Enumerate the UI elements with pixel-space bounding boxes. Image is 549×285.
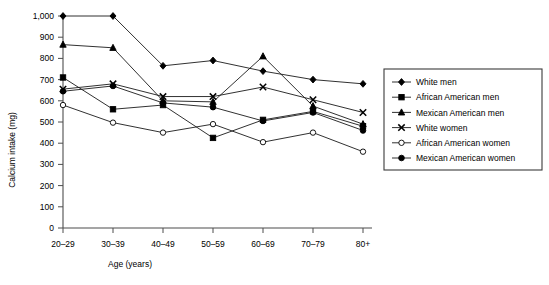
data-point-marker [310, 76, 316, 83]
legend-label: African American men [416, 92, 499, 102]
data-series-group [60, 13, 366, 155]
y-tick-label: 700 [40, 75, 54, 85]
x-tick-label: 60–69 [251, 239, 275, 249]
data-point-marker [210, 135, 215, 140]
data-point-marker [110, 107, 115, 112]
legend-marker [398, 109, 404, 115]
y-tick-label: 1,000 [33, 11, 55, 21]
legend-label: Mexican American men [416, 108, 505, 118]
y-tick-label: 400 [40, 138, 54, 148]
data-point-marker [60, 41, 66, 47]
data-point-marker [260, 68, 266, 75]
legend-item[interactable]: African American women [392, 138, 510, 148]
legend-marker [399, 155, 405, 161]
x-tick-label: 30–39 [101, 239, 125, 249]
legend-marker [399, 140, 404, 145]
data-point-marker [60, 13, 66, 20]
y-tick-label: 500 [40, 117, 54, 127]
data-point-marker [110, 120, 115, 125]
y-tick-label: 0 [49, 223, 54, 233]
data-point-marker [60, 88, 66, 94]
legend-label: White men [416, 77, 457, 87]
y-tick-label: 600 [40, 96, 54, 106]
legend-marker [399, 79, 405, 86]
legend-item[interactable]: White men [392, 77, 457, 87]
chart-canvas: 01002003004005006007008009001,000 20–293… [0, 0, 549, 285]
x-axis-title: Age (years) [108, 259, 152, 269]
x-tick-label: 50–59 [201, 239, 225, 249]
data-point-marker [210, 57, 216, 64]
x-tick-label: 20–29 [51, 239, 75, 249]
legend-item[interactable]: African American men [392, 92, 499, 102]
data-point-marker [260, 53, 266, 59]
y-axis-title: Calcium intake (mg) [7, 112, 17, 188]
data-point-marker [160, 100, 166, 106]
x-axis-ticks: 20–2930–3940–4950–5960–6970–7980+ [51, 228, 370, 249]
x-tick-label: 70–79 [301, 239, 325, 249]
data-point-marker [360, 80, 366, 87]
data-point-marker [210, 121, 215, 126]
x-tick-label: 80+ [356, 239, 370, 249]
y-tick-label: 200 [40, 181, 54, 191]
data-point-marker [160, 130, 165, 135]
y-tick-label: 100 [40, 202, 54, 212]
x-tick-label: 40–49 [151, 239, 175, 249]
y-tick-label: 800 [40, 53, 54, 63]
data-point-marker [260, 118, 266, 124]
legend-item[interactable]: Mexican American women [392, 153, 515, 163]
legend-label: African American women [416, 138, 510, 148]
chart-figure: 01002003004005006007008009001,000 20–293… [0, 0, 549, 285]
data-point-marker [110, 83, 116, 89]
legend-marker [399, 95, 404, 100]
legend-label: Mexican American women [416, 153, 515, 163]
data-point-marker [360, 109, 366, 115]
data-series [60, 13, 366, 88]
legend-item[interactable]: Mexican American men [392, 108, 505, 118]
legend-label: White women [416, 123, 468, 133]
data-point-marker [60, 102, 65, 107]
data-point-marker [60, 75, 65, 80]
data-point-marker [310, 130, 315, 135]
legend-item[interactable]: White women [392, 123, 468, 133]
y-tick-label: 300 [40, 159, 54, 169]
data-point-marker [360, 128, 366, 134]
data-point-marker [310, 110, 316, 116]
legend-entries-group: White menAfrican American menMexican Ame… [392, 77, 515, 163]
data-point-marker [210, 104, 216, 110]
data-point-marker [360, 149, 365, 154]
y-tick-label: 900 [40, 32, 54, 42]
data-point-marker [260, 139, 265, 144]
y-axis-ticks: 01002003004005006007008009001,000 [33, 11, 63, 233]
